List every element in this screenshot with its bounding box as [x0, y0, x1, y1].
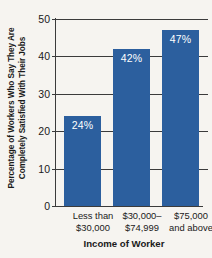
y-tick-label-20: 20: [38, 125, 50, 137]
bar-value-label-2: 42%: [113, 52, 150, 64]
bar-value-label-3: 47%: [162, 33, 199, 45]
x-axis-tick-labels: Less than $30,000 $30,000– $74,999 $75,0…: [56, 210, 208, 240]
y-axis-title: Percentage of Workers Who Say They Are C…: [0, 0, 34, 215]
x-tick-label-3-line-1: $75,000: [148, 210, 212, 222]
y-tick-label-50: 50: [38, 13, 50, 25]
bar-value-label-1: 24%: [64, 119, 101, 131]
y-tick-20: [52, 131, 56, 132]
y-tick-30: [52, 94, 56, 95]
y-axis-title-line-1: Percentage of Workers Who Say They Are: [6, 27, 17, 188]
x-axis-baseline: [56, 206, 203, 207]
y-tick-0: [52, 206, 56, 207]
y-axis-spine: [55, 18, 56, 206]
gridline-50: [56, 19, 208, 20]
y-axis-title-line-2: Completely Satisfied With Their Jobs: [17, 27, 28, 188]
plot-area: 50 40 30 20 10 0 24% 42% 47%: [56, 19, 208, 206]
bar-chart-figure: Percentage of Workers Who Say They Are C…: [0, 0, 212, 258]
bar-75000-and-above[interactable]: 47%: [162, 30, 199, 206]
y-tick-label-30: 30: [38, 88, 50, 100]
y-tick-10: [52, 169, 56, 170]
y-tick-label-40: 40: [38, 50, 50, 62]
bar-30000-74999[interactable]: 42%: [113, 49, 150, 206]
x-axis-title: Income of Worker: [40, 238, 208, 249]
y-tick-40: [52, 56, 56, 57]
x-tick-label-3-line-2: and above: [148, 222, 212, 234]
bar-less-than-30000[interactable]: 24%: [64, 116, 101, 206]
x-tick-label-3: $75,000 and above: [148, 210, 212, 233]
y-tick-50: [52, 19, 56, 20]
y-tick-label-10: 10: [38, 163, 50, 175]
